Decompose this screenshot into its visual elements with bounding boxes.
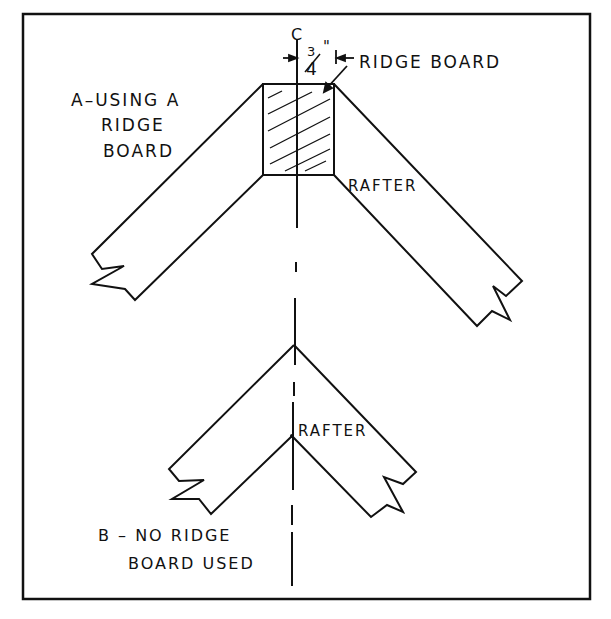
right-rafter-a (334, 84, 522, 326)
center-line (292, 40, 297, 586)
detail-b-title-line1: B – NO RIDGE (98, 526, 231, 545)
detail-a-title-line2: RIDGE (101, 115, 165, 135)
dimension-numerator: 3 (307, 44, 317, 59)
ridge-board-label: RIDGE BOARD (359, 52, 501, 72)
left-rafter-b (169, 345, 294, 514)
detail-b-title-line2: BOARD USED (128, 554, 255, 573)
rafter-a-label: RAFTER (348, 177, 418, 195)
rafter-ridge-diagram: C 3 4 " RIDGE BOARD A–USING A RIDGE BOAR… (0, 0, 611, 619)
ridge-board (263, 84, 334, 175)
ridge-board-hatching (268, 91, 330, 171)
detail-a-title-line3: BOARD (103, 141, 174, 161)
detail-a-title-line1: A–USING A (71, 90, 180, 110)
dimension-unit: " (323, 38, 332, 56)
apex-point (290, 434, 294, 438)
centerline-mark: C (291, 25, 304, 44)
rafter-b-label: RAFTER (298, 422, 368, 440)
